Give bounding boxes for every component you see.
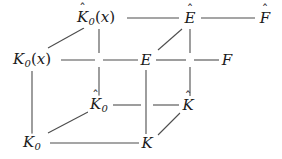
node-Ehat: ˆE — [183, 10, 198, 27]
hat-accent-icon: ˆ — [79, 2, 86, 15]
node-Khat: ˆK — [180, 97, 195, 114]
edge-K0-to-K0hat-diagonal — [48, 112, 88, 133]
node-Fhat: ˆF — [258, 10, 272, 27]
hat-accent-icon: ˆ — [262, 3, 269, 16]
node-Ehat-base: ˆE — [185, 11, 196, 26]
commutative-diagram: ˆK0(x) ˆE ˆF K0(x) E F ˆK0 ˆK K0 K — [0, 0, 282, 159]
node-K0hat-x-base: ˆK — [77, 10, 88, 25]
node-K0hat: ˆK0 — [88, 96, 110, 115]
node-E-base: E — [141, 51, 152, 69]
node-K0: K0 — [21, 134, 43, 153]
node-K0-subscript: 0 — [35, 140, 41, 151]
node-K0-x: K0(x) — [11, 51, 53, 70]
hat-accent-icon: ˆ — [185, 90, 192, 103]
node-K0-x-base: K — [13, 50, 24, 68]
edge-E-to-Ehat-diagonal — [158, 29, 182, 50]
node-Khat-base: ˆK — [182, 98, 193, 113]
node-K: K — [139, 135, 154, 152]
hat-accent-icon: ˆ — [187, 3, 194, 16]
node-Fhat-base: ˆF — [260, 11, 270, 26]
node-E: E — [139, 52, 154, 69]
node-F: F — [220, 52, 234, 69]
node-K0hat-x-paren-close: ) — [109, 8, 115, 26]
node-K0hat-x: ˆK0(x) — [75, 9, 117, 28]
node-K0-base: K — [23, 133, 34, 151]
node-K0hat-base: ˆK — [90, 97, 101, 112]
node-F-base: F — [222, 51, 232, 69]
node-K-base: K — [141, 134, 152, 152]
hat-accent-icon: ˆ — [92, 89, 99, 102]
node-K0-x-paren-close: ) — [45, 50, 51, 68]
edge-K-to-Khat-diagonal — [158, 113, 180, 135]
edge-K0x-to-K0hatx-diagonal — [48, 28, 84, 48]
node-K0hat-subscript: 0 — [102, 102, 108, 113]
